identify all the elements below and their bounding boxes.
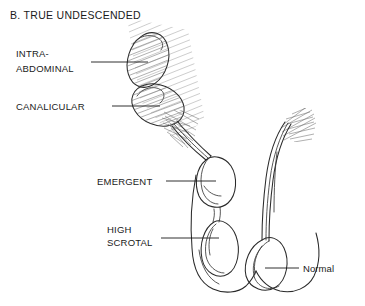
label-high-scrotal-line1: HIGH	[107, 224, 132, 235]
right-cord-fan-hatching	[281, 105, 316, 142]
canalicular-testis	[125, 68, 192, 142]
anatomical-diagram: B. TRUE UNDESCENDED	[0, 0, 365, 306]
label-high-scrotal-line2: SCROTAL	[107, 237, 153, 248]
high-scrotal-testis	[201, 221, 238, 276]
label-emergent: EMERGENT	[97, 176, 152, 187]
label-normal: Normal	[303, 263, 334, 274]
figure-container: B. TRUE UNDESCENDED	[0, 0, 365, 306]
label-canalicular: CANALICULAR	[16, 101, 85, 112]
figure-title: B. TRUE UNDESCENDED	[10, 9, 141, 21]
label-intra-abdominal-line2: ABDOMINAL	[16, 63, 74, 74]
intra-abdominal-testis	[120, 22, 176, 104]
normal-testis	[245, 238, 287, 291]
spermatic-cord-left	[172, 121, 211, 160]
left-cord-fan-hatching	[162, 109, 199, 148]
label-intra-abdominal-line1: INTRA-	[16, 48, 49, 59]
emergent-testis	[196, 156, 235, 222]
descent-trail-hatching	[128, 6, 205, 140]
spermatic-cord-right	[262, 122, 291, 241]
